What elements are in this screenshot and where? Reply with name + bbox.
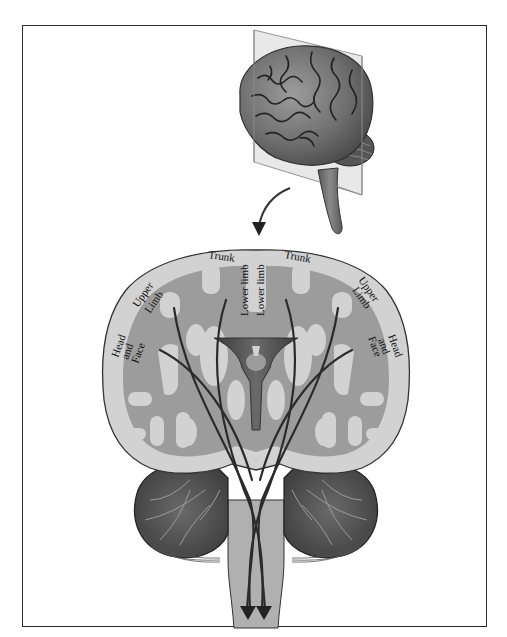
whole-brain-illustration bbox=[240, 30, 374, 236]
cerebellum-right bbox=[284, 464, 377, 563]
brain-diagram: Trunk Trunk Lower limb Lower limb Upper … bbox=[0, 0, 507, 637]
label-lower-limb-left: Lower limb bbox=[238, 264, 250, 316]
brainstem-section bbox=[228, 500, 284, 628]
label-lower-limb-right: Lower limb bbox=[254, 264, 266, 316]
cerebellum-left bbox=[135, 464, 228, 563]
curved-arrow-icon bbox=[259, 188, 290, 226]
